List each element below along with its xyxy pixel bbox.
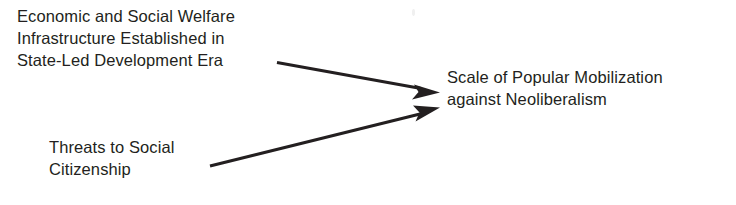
- node-popular-mobilization-line-1: Scale of Popular Mobilization: [447, 66, 663, 88]
- edge-threats-to-mobilization-shaft: [210, 114, 420, 166]
- edge-welfare-to-mobilization: [277, 63, 440, 100]
- edge-threats-to-mobilization-arrowhead: [413, 106, 440, 122]
- scan-artifact-speck: [412, 9, 415, 16]
- diagram-canvas: Economic and Social Welfare Infrastructu…: [0, 0, 736, 205]
- edge-welfare-to-mobilization-arrowhead: [412, 85, 440, 100]
- edge-threats-to-mobilization: [210, 106, 440, 167]
- node-popular-mobilization: Scale of Popular Mobilization against Ne…: [447, 66, 663, 110]
- node-welfare-infrastructure-line-3: State-Led Development Era: [17, 49, 235, 71]
- node-threats-citizenship: Threats to Social Citizenship: [49, 136, 175, 180]
- node-welfare-infrastructure: Economic and Social Welfare Infrastructu…: [17, 5, 235, 71]
- node-welfare-infrastructure-line-2: Infrastructure Established in: [17, 27, 235, 49]
- edge-welfare-to-mobilization-shaft: [277, 63, 421, 89]
- node-popular-mobilization-line-2: against Neoliberalism: [447, 88, 663, 110]
- node-welfare-infrastructure-line-1: Economic and Social Welfare: [17, 5, 235, 27]
- node-threats-citizenship-line-2: Citizenship: [49, 158, 175, 180]
- node-threats-citizenship-line-1: Threats to Social: [49, 136, 175, 158]
